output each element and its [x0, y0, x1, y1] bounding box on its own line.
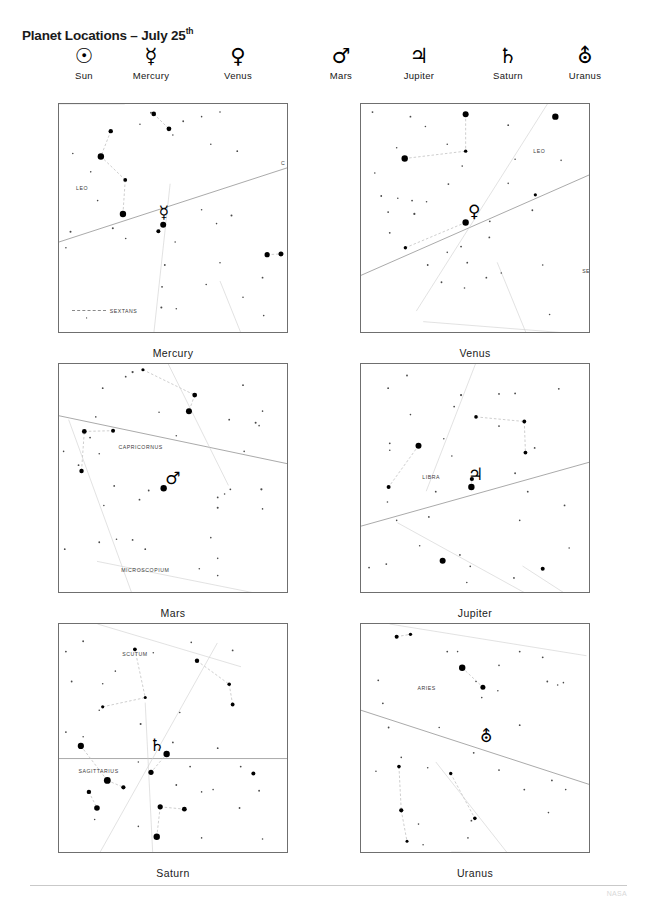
star-marker	[101, 705, 104, 708]
planet-position-marker-mars: ♂	[165, 469, 180, 486]
star-marker	[98, 541, 100, 543]
star-marker	[175, 784, 177, 786]
star-marker	[182, 807, 187, 812]
star-marker	[546, 681, 548, 683]
constellation-label: MICROSCOPIUM	[121, 567, 169, 573]
star-marker	[457, 651, 459, 653]
star-marker	[382, 702, 384, 704]
star-marker	[115, 670, 117, 672]
star-marker	[229, 488, 231, 490]
star-marker	[527, 491, 529, 493]
star-marker	[158, 804, 163, 809]
panel-caption-jupiter: Jupiter	[360, 607, 590, 619]
star-marker	[255, 422, 257, 424]
star-marker	[172, 742, 174, 744]
constellation-boundary-line	[436, 762, 508, 853]
star-marker	[158, 412, 160, 414]
star-marker	[98, 709, 100, 711]
star-marker	[160, 222, 166, 228]
star-marker	[498, 393, 500, 395]
star-marker	[501, 272, 503, 274]
star-marker	[243, 451, 245, 453]
legend-label-uranus: Uranus	[540, 70, 630, 82]
ecliptic-line	[361, 174, 590, 275]
panel-frame-mercury: LEOCSEXTANS☿	[58, 103, 288, 333]
star-marker	[262, 277, 264, 279]
edge-constellation-label: SE	[582, 268, 590, 274]
star-marker	[448, 183, 450, 185]
star-marker	[438, 727, 440, 729]
star-marker	[387, 485, 391, 489]
star-marker	[548, 812, 550, 814]
star-marker	[485, 277, 487, 279]
jupiter-symbol-icon: ♃	[374, 44, 464, 68]
star-marker	[139, 499, 141, 501]
star-marker	[144, 696, 147, 699]
in-chart-key: SEXTANS	[72, 308, 138, 314]
star-marker	[212, 789, 214, 791]
star-marker	[179, 712, 181, 714]
star-marker	[265, 252, 270, 257]
constellation-label: CAPRICORNUS	[118, 444, 162, 450]
constellation-label: LIBRA	[422, 474, 440, 480]
star-marker	[446, 651, 448, 653]
star-marker	[262, 410, 264, 412]
star-marker	[427, 767, 429, 769]
star-marker	[410, 116, 412, 118]
star-marker	[102, 683, 104, 685]
star-marker	[368, 567, 370, 569]
star-marker	[210, 537, 212, 539]
star-marker	[399, 808, 403, 812]
star-marker	[549, 314, 551, 316]
star-marker	[120, 211, 126, 217]
star-marker	[140, 723, 142, 725]
star-marker	[94, 805, 100, 811]
legend-item-jupiter: ♃Jupiter	[374, 44, 464, 82]
star-marker	[65, 247, 67, 249]
star-marker	[507, 183, 509, 185]
star-marker	[224, 493, 226, 495]
star-marker	[217, 558, 219, 560]
star-marker	[435, 491, 437, 493]
star-marker	[113, 485, 115, 487]
star-marker	[387, 211, 389, 213]
star-marker	[201, 116, 203, 118]
star-marker	[262, 508, 264, 510]
planet-symbol-legend: ☉Sun☿Mercury♀Venus♂Mars♃Jupiter♄Saturn⛢U…	[0, 44, 657, 90]
star-marker	[112, 227, 114, 229]
star-marker	[443, 438, 445, 440]
star-marker	[489, 220, 491, 222]
star-marker	[513, 577, 515, 579]
panel-caption-mercury: Mercury	[58, 347, 288, 359]
star-marker	[189, 766, 191, 768]
star-marker	[201, 791, 203, 793]
star-marker	[425, 126, 427, 128]
star-marker	[551, 780, 553, 782]
star-marker	[471, 820, 473, 822]
star-marker	[552, 113, 558, 119]
star-marker	[396, 147, 398, 149]
star-marker	[519, 520, 521, 522]
star-marker	[474, 415, 478, 419]
star-marker	[404, 246, 407, 249]
constellation-line	[101, 156, 125, 179]
star-marker	[132, 371, 134, 373]
constellation-line	[405, 151, 466, 158]
sky-canvas-uranus	[361, 624, 590, 853]
star-marker	[446, 252, 448, 254]
star-marker	[372, 111, 374, 113]
star-marker	[396, 520, 398, 522]
star-marker	[63, 451, 65, 453]
panel-frame-jupiter: LIBRA♃	[360, 363, 590, 593]
panel-frame-uranus: ARIES⛢	[360, 623, 590, 853]
constellation-label: SAGITTARIUS	[78, 768, 118, 774]
star-marker	[153, 652, 155, 654]
star-marker	[498, 769, 500, 771]
star-marker	[459, 554, 461, 556]
constellation-boundary-line	[416, 104, 547, 311]
star-marker	[467, 837, 469, 839]
constellation-boundary-line	[451, 852, 589, 853]
page-title-ordinal: th	[186, 26, 194, 36]
star-marker	[138, 826, 140, 828]
constellation-boundary-line	[397, 523, 526, 593]
